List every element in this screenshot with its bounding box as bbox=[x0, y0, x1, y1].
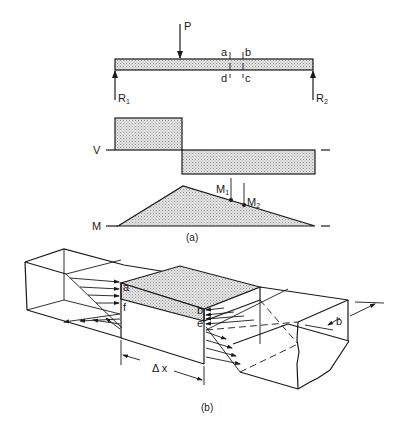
moment-diagram: M M1 M2 bbox=[92, 178, 330, 232]
dim-b-extension bbox=[355, 302, 384, 303]
reaction-right-label: R2 bbox=[316, 92, 328, 105]
left-top-diag bbox=[66, 260, 121, 274]
corner-label-b: b bbox=[197, 304, 203, 316]
m2-label: M2 bbox=[247, 196, 260, 209]
part-a: P a b d c R1 R2 V M bbox=[92, 20, 330, 243]
stress-arrow-icon bbox=[88, 295, 119, 296]
load-label: P bbox=[184, 20, 191, 32]
cut-label-c: c bbox=[245, 72, 251, 84]
hidden-edge-1 bbox=[240, 344, 298, 372]
stress-arrow-icon bbox=[206, 348, 236, 356]
stress-arrow-icon bbox=[206, 332, 226, 339]
cut-label-a: a bbox=[221, 46, 228, 58]
right-box-bottom-break bbox=[298, 341, 349, 389]
shear-negative-region bbox=[182, 150, 315, 174]
beam-shear-flow-figure: P a b d c R1 R2 V M bbox=[0, 0, 406, 434]
left-box-top-left bbox=[25, 262, 66, 274]
cut-label-b: b bbox=[245, 46, 251, 58]
dim-dx-arrow-icon bbox=[123, 355, 140, 360]
left-box-bottom-back bbox=[64, 300, 120, 314]
left-stress-arrows bbox=[64, 278, 120, 329]
stress-arrow-icon bbox=[206, 308, 224, 310]
beam: P a b d c R1 R2 bbox=[115, 20, 328, 105]
caption-a: (a) bbox=[186, 232, 198, 243]
left-box-bottom-left bbox=[27, 300, 64, 310]
dim-b-arrow-icon bbox=[350, 304, 375, 316]
dim-b-extension-2 bbox=[305, 325, 333, 330]
part-b: a f b e b bbox=[25, 249, 384, 413]
hidden-edge-3 bbox=[260, 300, 298, 344]
right-box-break-line bbox=[297, 322, 299, 389]
m1-label: M1 bbox=[216, 183, 229, 196]
shear-diagram: V bbox=[93, 118, 330, 174]
moment-label: M bbox=[92, 220, 101, 232]
cut-label-d: d bbox=[221, 72, 227, 84]
stress-arrow-icon bbox=[206, 320, 254, 324]
corner-label-a: a bbox=[123, 281, 130, 293]
m1-point bbox=[229, 198, 233, 202]
reaction-left-label: R1 bbox=[118, 92, 130, 105]
caption-b: (b) bbox=[201, 402, 213, 413]
right-box-bottom-front bbox=[240, 372, 298, 389]
beam-body bbox=[115, 59, 313, 70]
stress-arrow-icon bbox=[80, 287, 119, 289]
dim-dx-arrow-icon bbox=[174, 371, 202, 380]
shear-positive-region bbox=[115, 118, 182, 150]
m2-point bbox=[242, 203, 246, 207]
length-label: Δ x bbox=[152, 362, 168, 374]
left-box-front-edge bbox=[25, 262, 27, 310]
corner-label-f: f bbox=[123, 301, 127, 313]
width-label: b bbox=[336, 315, 342, 327]
right-box-top-back bbox=[260, 287, 348, 300]
stress-arrow-icon bbox=[70, 278, 119, 282]
stress-arrow-icon bbox=[206, 357, 240, 364]
element-bottom-edge bbox=[121, 338, 204, 364]
corner-label-e: e bbox=[197, 317, 203, 329]
shear-label: V bbox=[93, 144, 101, 156]
